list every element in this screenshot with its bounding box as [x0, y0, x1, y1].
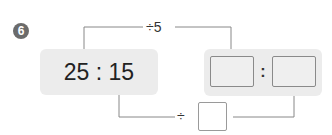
bottom-operation-operator: ÷ — [177, 108, 185, 124]
problem-number-badge: 6 — [13, 23, 29, 39]
top-connector-right — [175, 27, 231, 50]
ratio-separator: : — [96, 59, 102, 85]
top-operation-label: ÷5 — [146, 19, 161, 35]
answer-ratio-separator: : — [254, 56, 272, 87]
ratio-second-term: 15 — [109, 59, 135, 85]
ratio-first-term: 25 — [64, 59, 90, 85]
answer-second-term-input[interactable] — [272, 56, 316, 87]
given-ratio-text: 25 : 15 — [40, 49, 158, 95]
answer-first-term-input[interactable] — [210, 56, 254, 87]
divisor-input[interactable] — [198, 102, 227, 131]
bottom-connector-right — [233, 94, 294, 117]
